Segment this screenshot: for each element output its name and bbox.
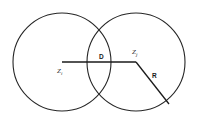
label-left-center-subscript: i [61,71,62,76]
label-radius: R [152,73,157,80]
label-right-center-subscript: j [136,52,137,57]
radius-line [136,62,169,104]
label-right-center: Zj [132,49,137,56]
label-distance: D [99,54,104,61]
label-left-center: Zi [57,68,62,75]
venn-diagram: Zi Zj D R [0,0,200,119]
